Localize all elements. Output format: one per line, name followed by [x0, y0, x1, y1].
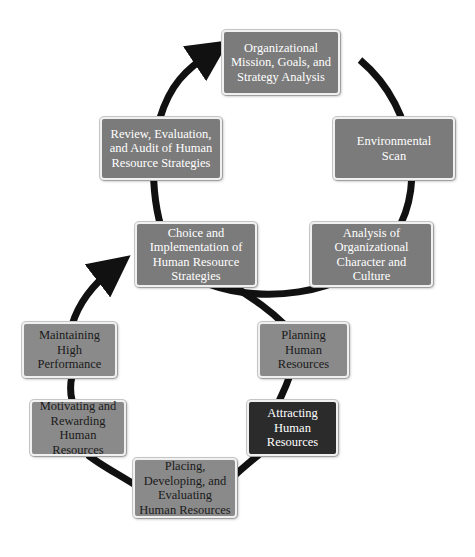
node-planning: Planning Human Resources: [258, 322, 349, 378]
node-label: Environmental Scan: [349, 134, 439, 163]
node-label: Placing, Developing, and Evaluating Huma…: [139, 459, 231, 517]
node-placing: Placing, Developing, and Evaluating Huma…: [133, 458, 237, 518]
node-label: Review, Evaluation, and Audit of Human R…: [106, 127, 216, 171]
node-maintaining: Maintaining High Performance: [22, 322, 117, 378]
node-analysis: Analysis of Organizational Character and…: [310, 222, 433, 287]
node-label: Motivating and Rewarding Human Resources: [36, 399, 120, 457]
node-mission: Organizational Mission, Goals, and Strat…: [222, 30, 340, 95]
node-label: Choice and Implementation of Human Resou…: [141, 226, 251, 284]
node-choice: Choice and Implementation of Human Resou…: [135, 222, 257, 287]
node-label: Attracting Human Resources: [258, 406, 328, 450]
node-env: Environmental Scan: [333, 117, 455, 180]
node-label: Maintaining High Performance: [33, 328, 107, 372]
node-motivating: Motivating and Rewarding Human Resources: [30, 400, 126, 456]
node-label: Planning Human Resources: [269, 328, 339, 372]
node-attracting: Attracting Human Resources: [247, 400, 338, 456]
node-review: Review, Evaluation, and Audit of Human R…: [100, 117, 222, 180]
node-label: Analysis of Organizational Character and…: [327, 226, 417, 284]
node-label: Organizational Mission, Goals, and Strat…: [228, 41, 334, 85]
